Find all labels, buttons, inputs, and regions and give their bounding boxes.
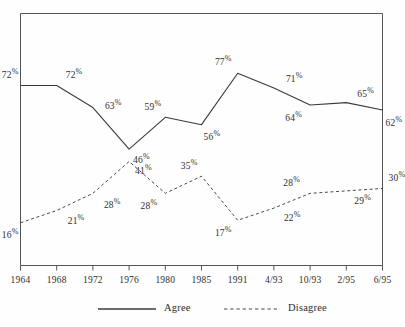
tick-label-4/93: 4/93 <box>265 276 283 286</box>
value-label-disagree-1964: 16% <box>2 231 19 241</box>
value-label-agree-6/95: 62% <box>386 119 403 129</box>
value-label-agree-2/95: 65% <box>357 90 374 100</box>
plot-frame <box>21 14 383 266</box>
value-label-agree-1985: 56% <box>204 133 221 143</box>
tick-label-1968: 1968 <box>47 276 67 286</box>
value-label-disagree-2/95: 29% <box>354 197 371 207</box>
tick-label-1964: 1964 <box>11 276 31 286</box>
value-label-disagree-1976: 41% <box>135 167 152 177</box>
value-label-disagree-1985: 35% <box>181 162 198 172</box>
value-label-agree-1991: 77% <box>215 58 232 68</box>
tick-label-10/93: 10/93 <box>299 276 322 286</box>
value-label-disagree-6/95: 30% <box>389 174 405 184</box>
value-label-disagree-10/93: 28% <box>283 179 300 189</box>
tick-label-6/95: 6/95 <box>374 276 392 286</box>
value-label-agree-10/93: 64% <box>285 114 302 124</box>
value-label-agree-1972: 63% <box>105 102 122 112</box>
tick-label-2/95: 2/95 <box>337 276 355 286</box>
data-series-lines <box>21 73 383 223</box>
tick-label-1985: 1985 <box>192 276 212 286</box>
series-line-agree <box>21 73 383 149</box>
value-label-agree-1968: 72% <box>66 71 83 81</box>
tick-label-1980: 1980 <box>155 276 175 286</box>
value-label-agree-4/93: 71% <box>286 75 303 85</box>
value-label-disagree-4/93: 22% <box>284 214 301 224</box>
series-line-disagree <box>21 161 383 222</box>
value-label-disagree-1968: 21% <box>68 217 85 227</box>
value-label-disagree-1991: 17% <box>215 229 232 239</box>
tick-label-1972: 1972 <box>83 276 103 286</box>
value-label-disagree-1980: 28% <box>141 202 158 212</box>
tick-label-1991: 1991 <box>228 276 248 286</box>
x-axis-ticks <box>21 266 383 271</box>
value-label-agree-1980: 59% <box>145 103 162 113</box>
legend-label-agree: Agree <box>164 303 191 314</box>
tick-label-1976: 1976 <box>119 276 139 286</box>
legend-label-disagree: Disagree <box>288 303 327 314</box>
value-label-agree-1964: 72% <box>2 71 19 81</box>
value-label-disagree-1972: 28% <box>104 201 121 211</box>
